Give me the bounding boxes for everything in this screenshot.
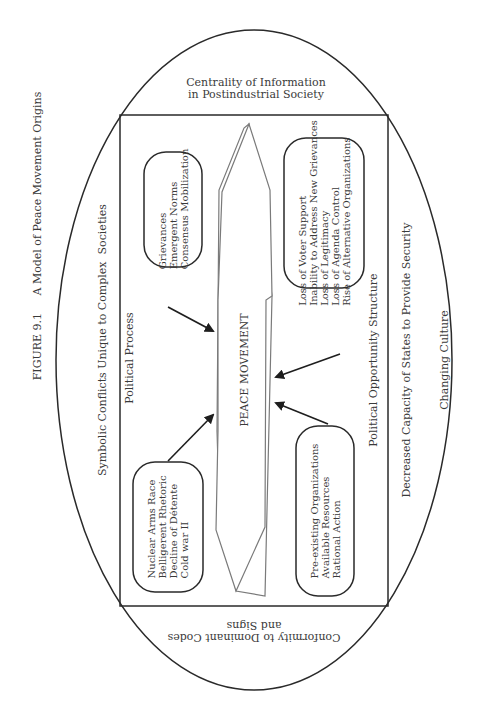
label-centrality-of-information: Centrality of Information in Postindustr… bbox=[186, 77, 326, 101]
label-peace-movement: PEACE MOVEMENT bbox=[238, 313, 250, 426]
label-political-process: Political Process bbox=[124, 312, 136, 404]
label-decreased-capacity: Decreased Capacity of States to Provide … bbox=[401, 223, 413, 498]
box-top-left-text: Grievances Emergent Norms Consensus Mobi… bbox=[157, 149, 190, 270]
box-bottom-right-text: Pre-existing Organizations Available Res… bbox=[309, 444, 342, 579]
label-political-opportunity-structure: Political Opportunity Structure bbox=[368, 273, 380, 446]
label-symbolic-conflicts: Symbolic Conflicts Unique to Complex Soc… bbox=[97, 204, 109, 476]
arrow-bottom-left bbox=[168, 415, 213, 461]
arrow-top-left bbox=[168, 307, 213, 331]
label-changing-culture: Changing Culture bbox=[439, 310, 451, 410]
box-bottom-left-text: Nuclear Arms Race Belligerent Rhetoric D… bbox=[146, 475, 190, 578]
box-top-right-text: Loss of Voter Support Inability to Addre… bbox=[297, 120, 352, 306]
arrow-top-right bbox=[276, 354, 340, 377]
label-conformity-to-dominant-codes: Conformity to Dominant Codes and Signs bbox=[168, 619, 341, 643]
figure-caption: FIGURE 9.1 A Model of Peace Movement Ori… bbox=[32, 92, 44, 381]
arrow-bottom-right bbox=[276, 403, 328, 424]
